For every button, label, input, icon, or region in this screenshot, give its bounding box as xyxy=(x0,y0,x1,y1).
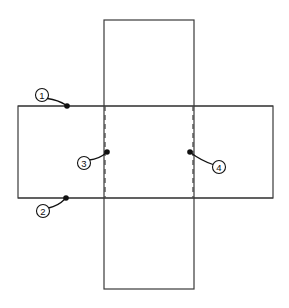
callout-1-label: 1 xyxy=(39,90,44,101)
callout-3-anchor-dot xyxy=(104,149,110,155)
net-diagram-svg: 1 2 3 4 xyxy=(0,0,289,308)
callout-3-label: 3 xyxy=(81,158,86,169)
callout-4-anchor-dot xyxy=(187,149,193,155)
callout-1-anchor-dot xyxy=(64,103,70,109)
callout-2-leader-line xyxy=(49,199,66,208)
callout-4-label: 4 xyxy=(216,162,221,173)
callout-2-label: 2 xyxy=(40,206,45,217)
net-diagram-canvas: 1 2 3 4 xyxy=(0,0,289,308)
horizontal-panel-face xyxy=(18,106,273,198)
callout-2-anchor-dot xyxy=(63,195,69,201)
callout-1-leader-line xyxy=(48,99,67,106)
